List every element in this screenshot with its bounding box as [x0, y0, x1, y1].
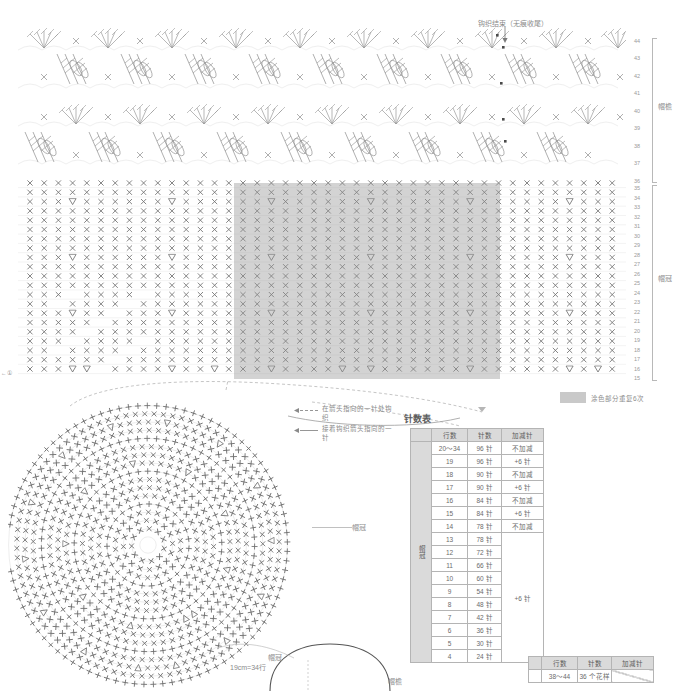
- single-crochet-symbol: [240, 218, 245, 223]
- single-crochet-symbol: [253, 601, 260, 608]
- single-crochet-symbol: [382, 348, 387, 353]
- single-crochet-symbol: [84, 180, 89, 185]
- single-crochet-symbol: [311, 283, 316, 288]
- single-crochet-symbol: [510, 227, 515, 232]
- single-crochet-symbol: [71, 549, 78, 556]
- single-crochet-symbol: [184, 190, 189, 195]
- single-crochet-symbol: [56, 227, 61, 232]
- single-crochet-symbol: [382, 180, 387, 185]
- single-crochet-symbol: [397, 227, 402, 232]
- single-crochet-symbol: [326, 320, 331, 325]
- single-crochet-symbol: [326, 264, 331, 269]
- single-crochet-symbol: [37, 600, 44, 607]
- cell-stitch-count: 72 针: [468, 546, 502, 559]
- single-crochet-symbol: [47, 467, 54, 474]
- single-crochet-symbol: [160, 536, 166, 542]
- single-crochet-symbol: [198, 311, 203, 316]
- legend-swatch: [560, 392, 586, 403]
- single-crochet-symbol: [165, 622, 171, 628]
- single-crochet-symbol: [198, 273, 203, 278]
- single-crochet-symbol: [425, 339, 430, 344]
- single-crochet-symbol: [175, 529, 181, 535]
- single-crochet-symbol: [27, 227, 32, 232]
- single-crochet-symbol: [24, 611, 32, 619]
- single-crochet-symbol: [174, 556, 180, 562]
- single-crochet-symbol: [257, 569, 263, 575]
- single-crochet-symbol: [439, 255, 444, 260]
- single-crochet-symbol: [567, 348, 572, 353]
- single-crochet-symbol: [245, 506, 253, 514]
- single-crochet-symbol: [185, 452, 191, 458]
- single-crochet-symbol: [297, 199, 302, 204]
- single-crochet-symbol: [261, 501, 267, 507]
- cell-stitch-count: 90 针: [468, 468, 502, 481]
- single-crochet-symbol: [75, 585, 82, 592]
- single-crochet-symbol: [269, 292, 274, 297]
- single-crochet-symbol: [122, 679, 129, 686]
- decrease-symbol: [566, 199, 573, 205]
- single-crochet-symbol: [595, 180, 600, 185]
- single-crochet-symbol: [311, 199, 316, 204]
- row-number: 34: [634, 196, 640, 202]
- single-crochet-symbol: [194, 646, 200, 652]
- single-crochet-symbol: [155, 264, 160, 269]
- single-crochet-symbol: [65, 500, 71, 506]
- single-crochet-symbol: [510, 255, 515, 260]
- single-crochet-symbol: [51, 571, 57, 577]
- single-crochet-symbol: [97, 410, 105, 418]
- single-crochet-symbol: [28, 482, 34, 488]
- single-crochet-symbol: [411, 273, 416, 278]
- single-crochet-symbol: [221, 493, 228, 500]
- decrease-symbol: [69, 199, 76, 205]
- single-crochet-symbol: [48, 525, 54, 531]
- single-crochet-symbol: [99, 560, 105, 566]
- single-crochet-symbol: [397, 255, 402, 260]
- single-crochet-symbol: [86, 513, 92, 519]
- single-crochet-symbol: [553, 199, 558, 204]
- single-crochet-symbol: [553, 301, 558, 306]
- single-crochet-symbol: [8, 521, 14, 528]
- single-crochet-symbol: [139, 557, 145, 563]
- single-crochet-symbol: [496, 227, 501, 232]
- single-crochet-symbol: [141, 190, 146, 195]
- single-crochet-symbol: [120, 574, 128, 582]
- single-crochet-symbol: [27, 509, 33, 515]
- single-crochet-symbol: [225, 501, 231, 507]
- single-crochet-symbol: [108, 560, 116, 568]
- row-number: 44: [634, 39, 640, 45]
- single-crochet-symbol: [42, 572, 49, 579]
- single-crochet-symbol: [539, 190, 544, 195]
- single-crochet-symbol: [468, 339, 473, 344]
- single-crochet-symbol: [89, 555, 95, 561]
- hat-brim-label: 帽檐: [388, 678, 402, 687]
- single-crochet-symbol: [397, 236, 402, 241]
- single-crochet-symbol: [195, 671, 203, 679]
- row-number: 25: [634, 281, 640, 287]
- single-crochet-symbol: [482, 357, 487, 362]
- single-crochet-symbol: [326, 255, 331, 260]
- single-crochet-symbol: [155, 348, 160, 353]
- single-crochet-symbol: [56, 199, 61, 204]
- single-crochet-symbol: [159, 614, 166, 621]
- row-number: 23: [634, 300, 640, 306]
- cell-stitch-count: 60 针: [468, 572, 502, 585]
- row-number: 18: [634, 348, 640, 354]
- single-crochet-symbol: [223, 601, 230, 608]
- single-crochet-symbol: [121, 629, 127, 635]
- single-crochet-symbol: [180, 476, 188, 484]
- single-crochet-symbol: [56, 218, 61, 223]
- single-crochet-symbol: [96, 572, 103, 579]
- single-crochet-symbol: [85, 658, 91, 664]
- single-crochet-symbol: [84, 444, 91, 451]
- single-crochet-symbol: [226, 236, 231, 241]
- cell-change: +6 针: [502, 481, 544, 494]
- single-crochet-symbol: [354, 218, 359, 223]
- row-number: 19: [634, 338, 640, 344]
- single-crochet-symbol: [284, 529, 291, 536]
- brim-table-header-stitches: 针数: [578, 657, 612, 670]
- single-crochet-symbol: [113, 218, 118, 223]
- single-crochet-symbol: [174, 431, 180, 437]
- single-crochet-symbol: [127, 283, 132, 288]
- single-crochet-symbol: [179, 598, 186, 605]
- single-crochet-symbol: [18, 573, 24, 579]
